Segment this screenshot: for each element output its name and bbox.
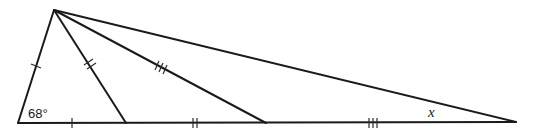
geometry-diagram: 68° x [0,0,533,134]
edge-base [18,122,516,123]
edge-apex-foot-2 [54,10,266,123]
edge-apex-base-right [54,10,516,122]
tick-triple-cevian-2 [155,61,167,74]
angle-label-68: 68° [28,106,48,121]
angle-label-x: x [427,104,435,120]
